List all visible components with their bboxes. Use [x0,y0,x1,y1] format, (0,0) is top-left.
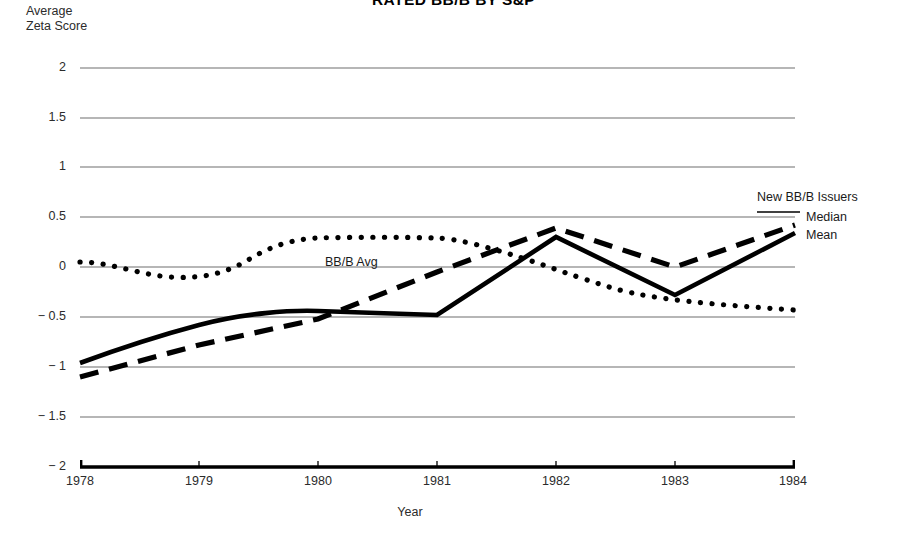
x-tick-label: 1981 [423,474,451,488]
x-axis [80,460,795,467]
x-tick-label: 1984 [779,474,807,488]
series-group-label: New BB/B Issuers [757,190,858,204]
x-axis-caption: Year [0,505,820,519]
x-tick-label: 1979 [185,474,213,488]
series-line-mean [80,233,795,363]
series-label-mean: Mean [806,228,837,242]
chart-plot-svg [0,0,907,548]
x-tick-label: 1983 [661,474,689,488]
gridlines [80,68,795,417]
x-tick-label: 1980 [304,474,332,488]
chart-container: RATED BB/B BY S&P AverageZeta Score 2 1.… [0,0,907,548]
series-label-median: Median [806,210,847,224]
x-tick-label: 1982 [542,474,570,488]
x-tick-label: 1978 [66,474,94,488]
series-label-bbb-avg: BB/B Avg [325,255,378,269]
